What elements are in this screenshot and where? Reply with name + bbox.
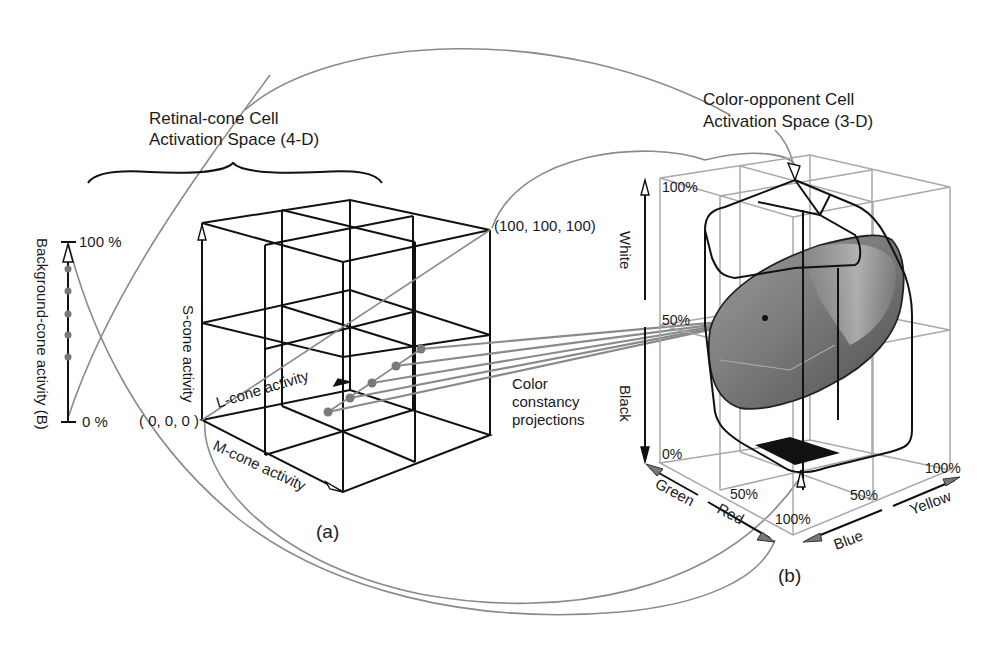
background-sample-dot [65, 266, 72, 273]
cube-sample-point [417, 345, 426, 354]
arrow-up-icon [641, 180, 649, 195]
arrow-blue-icon [803, 533, 822, 542]
projection-note-line1: Color [512, 375, 548, 392]
neutral-point [762, 315, 768, 321]
cube-sample-point [392, 362, 401, 371]
tick-50-lightness: 50% [662, 312, 690, 328]
s-cone-axis-label: S-cone activity [180, 305, 197, 403]
background-tick-100: 100 % [79, 233, 122, 250]
blue-label: Blue [831, 527, 865, 553]
connector-loop-inner [205, 420, 800, 603]
tick-0-lightness: 0% [662, 446, 682, 462]
opponent-title-line2: Activation Space (3-D) [703, 112, 873, 131]
color-solid [709, 235, 904, 408]
connector-arc-top [245, 49, 730, 115]
lightness-axis: White Black 100% 50% 0% [617, 179, 698, 462]
projection-note-line3: projections [512, 411, 585, 428]
retinal-title-line1: Retinal-cone Cell [149, 109, 278, 128]
m-axis-arrow-icon [326, 482, 343, 492]
cube-sample-point [346, 394, 355, 403]
tick-100-red-green: 100% [775, 511, 811, 527]
blue-yellow-axis: Blue Yellow 50% 100% [803, 460, 961, 553]
projection-note-line2: constancy [512, 393, 580, 410]
color-space-diagram: 100 % 0 % Background-cone activity (B) R… [0, 0, 1002, 659]
background-sample-dot [65, 311, 72, 318]
cube-sample-point [368, 379, 377, 388]
tick-100-blue-yellow: 100% [925, 460, 961, 476]
corner-label: (100, 100, 100) [494, 217, 596, 234]
s-axis-arrow-icon [198, 225, 206, 240]
tick-50-red-green: 50% [730, 486, 758, 502]
tick-50-blue-yellow: 50% [850, 487, 878, 503]
red-label: Red [715, 500, 747, 528]
brace-icon [88, 163, 382, 183]
arrow-red-icon [757, 532, 775, 542]
m-cone-axis-label: M-cone activity [211, 436, 309, 494]
panel-a-caption: (a) [316, 521, 339, 542]
black-base [755, 437, 840, 465]
background-tick-0: 0 % [82, 413, 108, 430]
l-cone-axis-label: L-cone activity [214, 366, 311, 410]
panel-b-caption: (b) [778, 565, 801, 586]
arrow-yellow-icon [943, 477, 960, 486]
white-label: White [617, 231, 634, 269]
tick-100-lightness: 100% [662, 179, 698, 195]
background-sample-dot [65, 354, 72, 361]
red-green-axis: Green Red 50% 100% [646, 464, 811, 542]
background-sample-dot [65, 288, 72, 295]
retinal-title-line2: Activation Space (4-D) [149, 130, 319, 149]
background-sample-dot [65, 332, 72, 339]
background-cone-axis: 100 % 0 % Background-cone activity (B) [34, 233, 122, 430]
background-axis-label: Background-cone activity (B) [34, 238, 51, 430]
top-pointer-arrow-icon [788, 163, 800, 180]
arrow-down-icon [641, 447, 649, 462]
cube-sample-point [324, 408, 333, 417]
opponent-title: Color-opponent Cell Activation Space (3-… [703, 90, 873, 131]
retinal-title: Retinal-cone Cell Activation Space (4-D) [88, 109, 382, 183]
black-label: Black [617, 385, 634, 422]
opponent-title-line1: Color-opponent Cell [703, 90, 854, 109]
projection-note: Color constancy projections [512, 375, 585, 428]
origin-label: ( 0, 0, 0 ) [139, 412, 199, 429]
yellow-label: Yellow [907, 487, 953, 518]
